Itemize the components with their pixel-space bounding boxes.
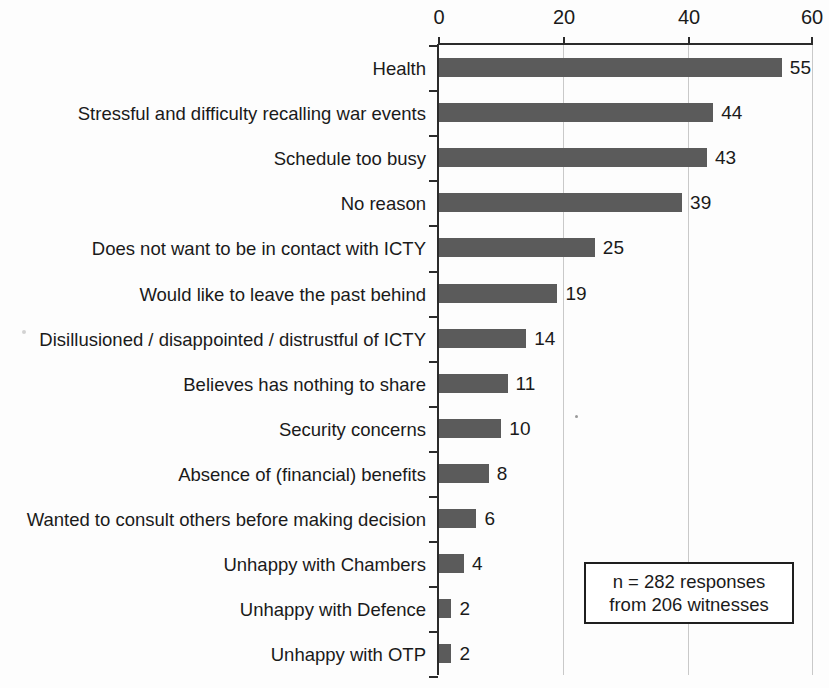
category-label: Would like to leave the past behind [0,285,426,304]
bar-value-label: 39 [690,193,711,212]
bar-value-label: 55 [790,58,811,77]
category-label: Unhappy with Chambers [0,555,426,574]
x-tick-mark-0 [438,37,440,45]
bar-value-label: 25 [603,238,624,257]
x-tick-label-60: 60 [801,6,823,29]
y-tick-mark [429,45,438,47]
bar-value-label: 14 [534,329,555,348]
category-label: Health [0,59,426,78]
y-tick-mark [429,135,438,137]
category-label: Stressful and difficulty recalling war e… [0,104,426,123]
category-label: Believes has nothing to share [0,375,426,394]
y-tick-mark [429,631,438,633]
y-tick-mark [429,586,438,588]
bar-value-label: 10 [509,419,530,438]
bar-value-label: 4 [472,554,483,573]
x-tick-mark-40 [688,37,690,45]
y-tick-mark [429,496,438,498]
bar-value-label: 44 [721,103,742,122]
category-label: Wanted to consult others before making d… [0,510,426,529]
y-tick-mark [429,180,438,182]
x-tick-label-20: 20 [553,6,575,29]
x-tick-mark-20 [563,37,565,45]
bar [439,644,451,663]
bar-value-label: 19 [565,284,586,303]
cropped-axis-title [0,679,829,688]
category-label: Absence of (financial) benefits [0,465,426,484]
x-tick-label-40: 40 [678,6,700,29]
bar [439,554,464,573]
bar [439,148,707,167]
y-tick-mark [429,316,438,318]
scan-speck-artifact [575,415,578,418]
y-tick-mark [429,361,438,363]
bar-value-label: 43 [715,148,736,167]
bar [439,464,489,483]
x-tick-label-0: 0 [433,6,444,29]
bar-value-label: 11 [516,374,536,393]
bar [439,58,782,77]
category-label: Schedule too busy [0,149,426,168]
bar-value-label: 8 [497,464,508,483]
gridline-20 [563,44,564,675]
sample-size-line-2: from 206 witnesses [609,593,768,616]
x-tick-mark-60 [811,37,813,45]
bar-chart-figure: 0 20 40 60 Health55Stressful and difficu… [0,0,829,688]
y-tick-mark [429,406,438,408]
sample-size-note: n = 282 responses from 206 witnesses [584,562,794,624]
category-label: No reason [0,194,426,213]
category-label: Disillusioned / disappointed / distrustf… [0,330,426,349]
gridline-60 [812,44,813,675]
bar [439,193,682,212]
cropped-axis-title-text [270,679,275,688]
y-tick-mark [429,225,438,227]
y-tick-mark [429,271,438,273]
x-axis-line [438,43,813,45]
bar [439,284,557,303]
y-tick-mark [429,451,438,453]
bar-value-label: 2 [459,599,470,618]
scan-speck-artifact-left [22,330,26,334]
y-tick-mark [429,541,438,543]
bar [439,238,595,257]
bar [439,599,451,618]
bar-value-label: 2 [459,644,470,663]
bar [439,329,526,348]
category-label: Security concerns [0,420,426,439]
category-label: Unhappy with Defence [0,600,426,619]
bar [439,103,713,122]
bar [439,374,508,393]
bar-value-label: 6 [484,509,495,528]
sample-size-line-1: n = 282 responses [613,570,766,593]
bar [439,509,476,528]
bar [439,419,501,438]
y-axis-line [437,44,439,675]
y-tick-mark [429,90,438,92]
category-label: Does not want to be in contact with ICTY [0,239,426,258]
category-label: Unhappy with OTP [0,645,426,664]
